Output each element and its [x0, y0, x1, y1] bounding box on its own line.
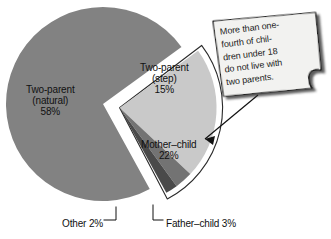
slice-label-father-child: Father–child 3% [166, 218, 236, 229]
leader-line-father-child [153, 205, 163, 220]
slice-label-line1: Mother–child [141, 139, 196, 150]
slice-label-percent: 58% [26, 106, 75, 117]
slice-label-line2: (natural) [26, 95, 75, 106]
leader-line-other [104, 207, 116, 220]
slice-label-line1: Two-parent [26, 84, 75, 95]
slice-label-mother-child: Mother–child 22% [141, 139, 196, 161]
pie-chart-figure: Two-parent (natural) 58% Two-parent (ste… [0, 0, 331, 239]
callout-note-text: More than one- fourth of chil- dren unde… [219, 15, 318, 90]
slice-label-other: Other 2% [62, 218, 103, 229]
slice-label-line1: Two-parent [140, 62, 189, 73]
slice-label-two-parent-natural: Two-parent (natural) 58% [26, 84, 75, 118]
slice-label-line2: (step) [140, 73, 189, 84]
leader-lines-group [104, 205, 163, 220]
slice-label-two-parent-step: Two-parent (step) 15% [140, 62, 189, 96]
slice-label-percent: 22% [141, 150, 196, 161]
slice-label-percent: 15% [140, 84, 189, 95]
callout-note-text-block: More than one- fourth of chil- dren unde… [212, 8, 325, 100]
